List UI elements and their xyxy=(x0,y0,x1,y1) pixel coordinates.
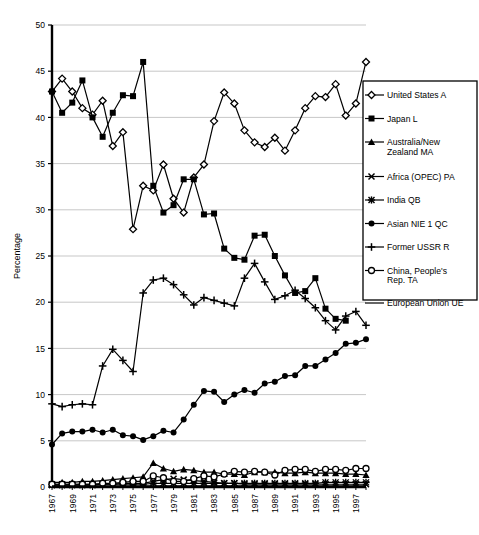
marker-open-circle xyxy=(343,467,349,473)
marker-filled-circle xyxy=(343,341,349,347)
marker-filled-circle xyxy=(292,372,298,378)
x-tick-label: 1967 xyxy=(47,494,57,513)
series-line xyxy=(52,62,346,321)
y-tick-label: 35 xyxy=(36,159,46,169)
marker-filled-circle xyxy=(262,381,268,387)
marker-open-circle xyxy=(160,475,166,481)
marker-filled-square xyxy=(120,92,126,98)
marker-filled-circle xyxy=(333,350,339,356)
marker-open-circle xyxy=(333,466,339,472)
legend-label: Australia/New xyxy=(387,137,441,147)
marker-filled-square xyxy=(231,255,237,261)
marker-filled-square xyxy=(69,100,75,106)
marker-filled-circle xyxy=(191,402,197,408)
marker-open-diamond xyxy=(292,127,299,134)
y-axis-title: Percentage xyxy=(12,233,22,279)
marker-open-circle xyxy=(181,478,187,484)
marker-filled-circle xyxy=(100,429,106,435)
marker-filled-circle xyxy=(369,221,375,227)
marker-filled-circle xyxy=(90,427,96,433)
x-axis-ticks: 1967196919711973197519771979198119831985… xyxy=(47,487,366,513)
legend-label: United States A xyxy=(387,90,447,100)
marker-filled-square xyxy=(191,176,197,182)
marker-filled-square xyxy=(333,316,339,322)
series-line xyxy=(52,339,366,444)
y-tick-label: 15 xyxy=(36,344,46,354)
marker-filled-square xyxy=(221,246,227,252)
marker-open-circle xyxy=(231,468,237,474)
chart-figure: 05101520253035404550Percentage1967196919… xyxy=(0,0,479,535)
x-tick-label: 1977 xyxy=(149,494,159,513)
marker-open-circle xyxy=(363,466,369,472)
marker-open-diamond xyxy=(140,182,147,189)
marker-filled-circle xyxy=(120,432,126,438)
marker-filled-circle xyxy=(160,428,166,434)
legend-label-line2: Rep. TA xyxy=(387,275,418,285)
marker-open-diamond xyxy=(160,161,167,168)
marker-filled-circle xyxy=(201,388,207,394)
marker-filled-circle xyxy=(272,379,278,385)
marker-filled-circle xyxy=(211,389,217,395)
marker-filled-triangle xyxy=(150,459,157,466)
series-former-ussr-r xyxy=(48,260,370,411)
marker-filled-square xyxy=(59,110,65,116)
y-tick-label: 10 xyxy=(36,390,46,400)
marker-filled-circle xyxy=(130,433,136,439)
marker-open-circle xyxy=(322,466,328,472)
legend-label-line2: Zealand MA xyxy=(387,147,434,157)
y-tick-label: 45 xyxy=(36,66,46,76)
marker-filled-square xyxy=(130,93,136,99)
series-line xyxy=(52,62,366,229)
x-tick-label: 1993 xyxy=(311,494,321,513)
x-tick-label: 1981 xyxy=(189,494,199,513)
marker-filled-square xyxy=(312,275,318,281)
marker-open-circle xyxy=(120,479,126,485)
y-tick-label: 30 xyxy=(36,205,46,215)
legend-label: Japan L xyxy=(387,114,418,124)
marker-filled-circle xyxy=(221,399,227,405)
marker-filled-square xyxy=(211,210,217,216)
marker-filled-square xyxy=(181,176,187,182)
marker-filled-circle xyxy=(363,336,369,342)
line-chart: 05101520253035404550Percentage1967196919… xyxy=(0,0,479,535)
marker-open-circle xyxy=(201,473,207,479)
marker-filled-square xyxy=(49,89,55,95)
marker-open-circle xyxy=(262,469,268,475)
y-tick-label: 40 xyxy=(36,113,46,123)
marker-filled-circle xyxy=(302,363,308,369)
x-tick-label: 1991 xyxy=(290,494,300,513)
legend-label: Former USSR R xyxy=(387,242,450,252)
marker-filled-square xyxy=(282,272,288,278)
marker-filled-circle xyxy=(49,441,55,447)
series-united-states-a xyxy=(49,58,370,232)
x-tick-label: 1975 xyxy=(128,494,138,513)
x-tick-label: 1969 xyxy=(68,494,78,513)
marker-filled-circle xyxy=(241,387,247,393)
x-tick-label: 1979 xyxy=(169,494,179,513)
series-line xyxy=(52,263,366,406)
marker-open-diamond xyxy=(211,118,218,125)
legend-label: India QB xyxy=(387,195,421,205)
x-tick-label: 1995 xyxy=(331,494,341,513)
y-tick-label: 0 xyxy=(40,482,45,492)
series-line xyxy=(52,463,366,482)
legend: United States AJapan LAustralia/NewZeala… xyxy=(363,81,477,308)
marker-filled-square xyxy=(252,233,258,239)
legend-label: Asian NIE 1 QC xyxy=(387,219,448,229)
marker-open-circle xyxy=(252,468,258,474)
marker-filled-triangle xyxy=(160,465,167,472)
marker-filled-circle xyxy=(171,429,177,435)
series-japan-l xyxy=(49,59,349,324)
marker-filled-square xyxy=(302,288,308,294)
y-tick-label: 5 xyxy=(40,436,45,446)
marker-filled-circle xyxy=(69,429,75,435)
marker-open-diamond xyxy=(130,226,137,233)
marker-open-circle xyxy=(282,467,288,473)
legend-label: Africa (OPEC) PA xyxy=(387,172,455,182)
marker-open-diamond xyxy=(79,105,86,112)
marker-filled-circle xyxy=(353,340,359,346)
marker-filled-square xyxy=(171,202,177,208)
marker-filled-square xyxy=(150,183,156,189)
marker-open-circle xyxy=(211,474,217,480)
marker-filled-square xyxy=(272,253,278,259)
